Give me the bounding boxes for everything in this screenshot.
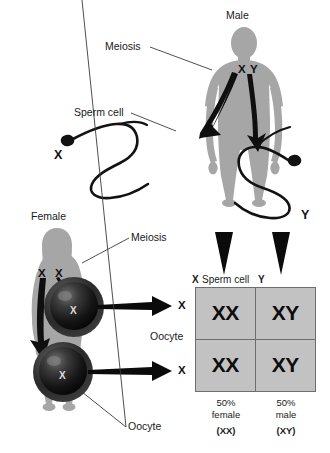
sperm-cell-label: Sperm cell: [74, 107, 124, 118]
punnett-header-x: X: [192, 274, 199, 285]
female-allele-x2: X: [55, 268, 63, 280]
meiosis-female-label: Meiosis: [131, 232, 167, 243]
punnett-cell-xy-top: XY: [256, 288, 316, 340]
punnett-cell-xy-bottom: XY: [256, 340, 316, 392]
punnett-cell-xx-bottom: XX: [196, 340, 256, 392]
punnett-cell-xx-top: XX: [196, 288, 256, 340]
punnett-square: XX XY XX XY: [195, 287, 316, 392]
punnett-side-label: Oocyte: [150, 331, 183, 342]
male-allele-x: X: [238, 64, 246, 76]
footer-female-genotype: (XX): [217, 425, 236, 436]
leader-lines: [82, 0, 212, 427]
meiosis-male-label: Meiosis: [105, 41, 141, 52]
punnett-header-sperm-cell: Sperm cell: [202, 274, 249, 285]
punnett-footer-male: 50% male (XY): [256, 397, 316, 437]
diagram-canvas: Male Meiosis Sperm cell Female Meiosis O…: [0, 0, 330, 453]
sperm-label-x: X: [54, 149, 62, 162]
footer-male-genotype: (XY): [277, 425, 296, 436]
male-label: Male: [226, 10, 249, 21]
punnett-row-label-0: X: [178, 300, 186, 312]
male-silhouette: [205, 27, 283, 207]
female-label: Female: [31, 211, 66, 222]
sperm-label-y: Y: [301, 209, 309, 222]
sperm-cell-x: [61, 122, 148, 198]
footer-female-sex: female: [196, 409, 256, 421]
punnett-footer-female: 50% female (XX): [196, 397, 256, 437]
punnett-row-label-1: X: [178, 365, 186, 377]
oocyte-upper-nucleus: X: [70, 306, 77, 316]
footer-female-percent: 50%: [196, 397, 256, 409]
punnett-header-y: Y: [258, 274, 265, 285]
oocyte-lower-nucleus: X: [59, 371, 66, 381]
female-allele-x1: X: [38, 268, 46, 280]
male-allele-y: Y: [250, 64, 258, 76]
oocyte-callout-label: Oocyte: [128, 421, 161, 432]
footer-male-sex: male: [256, 409, 316, 421]
footer-male-percent: 50%: [256, 397, 316, 409]
